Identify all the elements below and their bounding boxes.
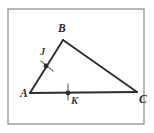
vertex-label-A: A	[19, 87, 28, 99]
point-label-K: K	[70, 95, 79, 106]
figure-frame	[8, 9, 144, 124]
point-dot-J	[44, 64, 49, 69]
point-dot-K	[66, 91, 71, 96]
figure-canvas: A B C J K	[0, 0, 154, 133]
point-label-J: J	[39, 46, 46, 57]
geometry-figure: A B C J K	[0, 0, 154, 133]
segment-AC	[30, 92, 137, 93]
vertex-label-C: C	[139, 93, 147, 105]
vertex-label-B: B	[57, 22, 66, 34]
